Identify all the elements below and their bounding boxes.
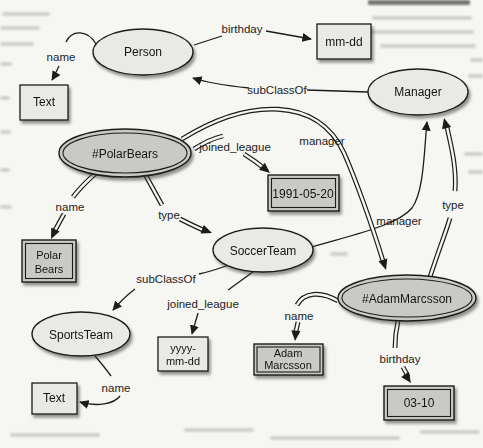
node-manager-label: Manager (394, 85, 441, 99)
node-polarbears-label: #PolarBears (92, 147, 158, 161)
edge-person-name-arrow (52, 66, 59, 80)
node-person: Person (93, 29, 193, 75)
node-0310: 03-10 (384, 386, 454, 420)
node-adam-literal-line1: Adam (274, 347, 303, 359)
edge-polarbears-name-line-inner (73, 173, 96, 197)
edge-polarbears-type-line-inner (146, 176, 162, 205)
node-1991-05-20: 1991-05-20 (268, 175, 339, 211)
edge-label-type-pb: type (158, 209, 180, 221)
edge-label-subclassof-manager: subClassOf (247, 84, 307, 96)
node-polarbears-literal-line2: Bears (35, 263, 64, 275)
arrowhead (379, 259, 391, 272)
edge-soccerteam-subclassof-line (199, 265, 229, 274)
node-yyyymmdd-line2: mm-dd (166, 355, 200, 367)
edge-label-birthday-adam: birthday (380, 353, 421, 365)
arrowhead (201, 225, 214, 237)
edge-soccerteam-joinedleague-line (228, 271, 254, 290)
node-person-label: Person (124, 45, 162, 59)
node-mmdd-label: mm-dd (325, 35, 362, 49)
arrowhead (401, 372, 415, 386)
node-text-bottom: Text (32, 383, 77, 414)
node-1991-05-20-label: 1991-05-20 (272, 187, 334, 201)
node-adammarcsson-label: #AdamMarcsson (362, 292, 452, 306)
node-adammarcsson: #AdamMarcsson (338, 275, 476, 321)
node-polarbears: #PolarBears (59, 129, 191, 177)
edge-label-joinedleague-schema: joined_league (166, 298, 239, 310)
edge-label-birthday-person: birthday (222, 23, 263, 35)
edge-person-name-hook (66, 33, 96, 44)
node-mmdd: mm-dd (317, 24, 371, 59)
node-sportsteam-label: SportsTeam (49, 328, 113, 342)
node-adam-literal-line2: Marcsson (264, 359, 312, 371)
edge-person-birthday-arrow (266, 31, 311, 39)
edge-label-type-adam: type (442, 199, 464, 211)
node-0310-label: 03-10 (404, 396, 435, 410)
edge-adam-name-line (297, 294, 338, 305)
node-text-top-label: Text (33, 95, 56, 109)
edge-label-name-sports: name (102, 382, 131, 394)
edge-label-name-person: name (47, 51, 76, 63)
rdf-graph-diagram: Person Manager #PolarBears SoccerTeam Sp… (0, 0, 483, 448)
edge-sportsteam-name-arrow (80, 396, 120, 404)
node-adam-literal: Adam Marcsson (254, 344, 323, 375)
node-soccerteam: SoccerTeam (213, 228, 313, 272)
edge-label-subclassof-soccer: subClassOf (136, 273, 196, 285)
node-sportsteam: SportsTeam (32, 312, 130, 356)
edge-label-manager-pb: manager (299, 135, 345, 147)
node-polarbears-literal: Polar Bears (22, 240, 76, 282)
edge-person-birthday-line (194, 36, 222, 45)
edge-sportsteam-name-line (95, 356, 111, 376)
edge-polarbears-type-arrowline-inner (180, 219, 203, 230)
edge-label-joinedleague-pb: joined_league (198, 141, 271, 153)
edge-label-name-pb: name (56, 201, 85, 213)
edge-polarbears-name-arrowline-inner (54, 214, 64, 232)
node-soccerteam-label: SoccerTeam (230, 244, 297, 258)
node-text-top: Text (20, 85, 68, 120)
edge-label-manager-schema: manager (376, 215, 422, 227)
scanned-book-figure: Person Manager #PolarBears SoccerTeam Sp… (0, 0, 483, 448)
node-text-bottom-label: Text (43, 391, 66, 405)
node-yyyymmdd: yyyy- mm-dd (158, 337, 208, 371)
edge-adam-type-line-inner (430, 218, 450, 277)
arrowhead (440, 117, 451, 129)
edge-label-name-adam: name (285, 310, 314, 322)
edge-manager-subclassof-arrow (193, 78, 249, 88)
edge-manager-subclassof-line (307, 90, 368, 92)
edge-soccerteam-subclassof-arrow (113, 289, 135, 310)
edge-soccerteam-joinedleague-arrow (192, 313, 198, 334)
node-polarbears-literal-line1: Polar (36, 249, 62, 261)
node-manager: Manager (368, 69, 468, 115)
arrowhead (290, 330, 300, 341)
node-yyyymmdd-line1: yyyy- (170, 342, 196, 354)
